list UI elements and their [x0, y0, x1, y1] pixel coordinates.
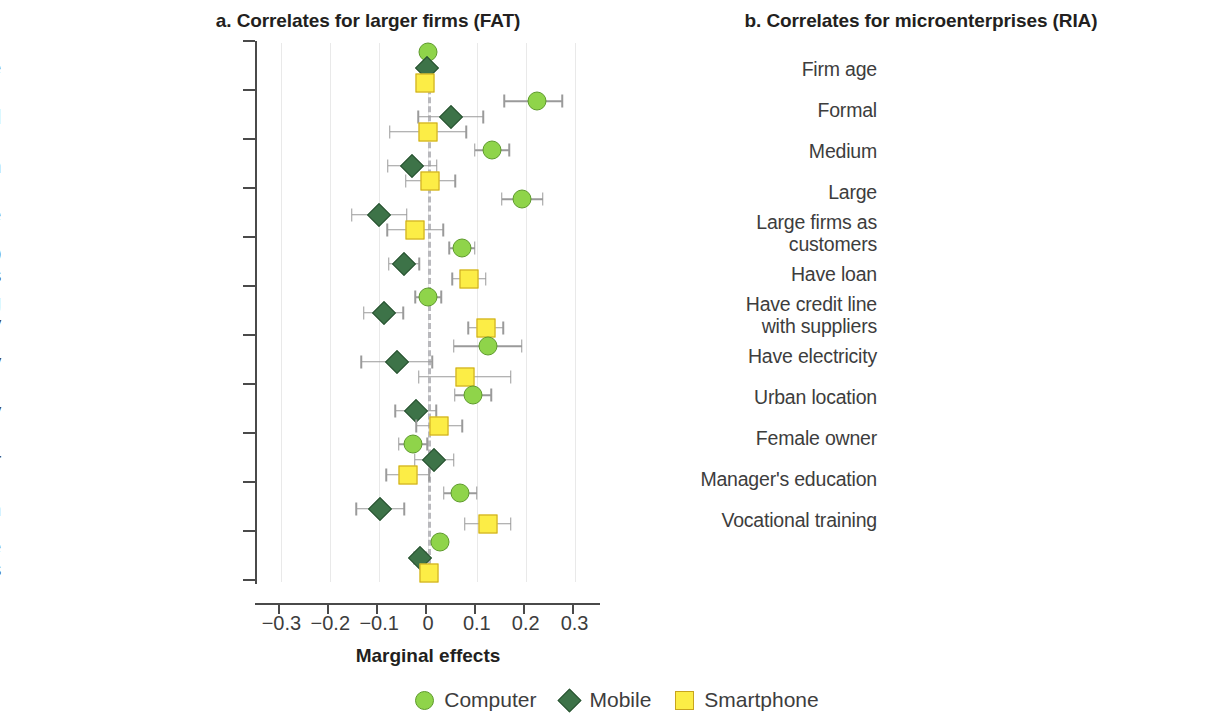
error-bar-cap-high-9 — [476, 487, 478, 500]
data-point-mobile-4[interactable] — [392, 251, 416, 275]
error-bar-cap-low-4 — [449, 242, 451, 255]
error-bar-cap-low-9 — [464, 517, 466, 530]
error-bar-cap-low-5 — [415, 291, 417, 304]
data-point-smartphone-0[interactable] — [416, 73, 435, 92]
data-point-computer-9[interactable] — [451, 484, 470, 503]
y-axis-label-b-3: Large — [637, 181, 877, 203]
x-tick-label-3: 0 — [422, 612, 433, 635]
error-bar-cap-high-6 — [432, 355, 434, 368]
y-tick-11 — [243, 579, 255, 581]
x-tick-label-2: −0.1 — [359, 612, 398, 635]
y-tick-6 — [243, 334, 255, 336]
square-glyph — [675, 691, 694, 710]
data-point-smartphone-5[interactable] — [476, 318, 495, 337]
error-bar-cap-low-7 — [416, 419, 418, 432]
error-bar-cap-low-3 — [387, 223, 389, 236]
y-axis-label-a-7: Located in capital city — [0, 400, 1, 422]
x-tick-label-4: 0.1 — [463, 612, 491, 635]
data-point-computer-3[interactable] — [513, 190, 532, 209]
y-axis-label-b-7: Have electricity — [637, 345, 877, 367]
error-bar-cap-high-5 — [502, 321, 504, 334]
x-tick-label-6: 0.3 — [561, 612, 589, 635]
error-bar-cap-low-2 — [387, 159, 389, 172]
error-bar-cap-high-7 — [490, 389, 492, 402]
data-point-computer-1[interactable] — [527, 92, 546, 111]
error-bar-cap-high-6 — [510, 370, 512, 383]
error-bar-cap-high-2 — [508, 144, 510, 157]
y-tick-7 — [243, 383, 255, 385]
error-bar-cap-high-9 — [403, 502, 405, 515]
legend-item-mobile[interactable]: Mobile — [558, 688, 651, 712]
data-point-smartphone-1[interactable] — [419, 122, 438, 141]
legend-item-smartphone[interactable]: Smartphone — [673, 688, 818, 712]
x-tick-label-0: −0.3 — [262, 612, 301, 635]
data-point-smartphone-6[interactable] — [455, 367, 474, 386]
gridline-4 — [477, 43, 478, 582]
diamond-icon — [558, 689, 580, 711]
error-bar-cap-low-5 — [467, 321, 469, 334]
square-icon — [673, 689, 695, 711]
data-point-smartphone-7[interactable] — [430, 416, 449, 435]
forest-plot-figure: a. Correlates for larger firms (FAT) −0.… — [0, 0, 1232, 717]
error-bar-cap-high-3 — [542, 193, 544, 206]
data-point-computer-4[interactable] — [453, 239, 472, 258]
panel-a-y-axis — [255, 41, 257, 584]
error-bar-cap-low-6 — [453, 340, 455, 353]
data-point-computer-5[interactable] — [419, 288, 438, 307]
y-axis-label-a-9: Manager's education — [0, 498, 1, 520]
data-point-mobile-9[interactable] — [368, 496, 392, 520]
diamond-glyph — [557, 688, 581, 712]
error-bar-cap-low-3 — [501, 193, 503, 206]
data-point-mobile-1[interactable] — [439, 104, 463, 128]
error-bar-cap-high-1 — [465, 125, 467, 138]
data-point-mobile-5[interactable] — [372, 300, 396, 324]
data-point-computer-6[interactable] — [478, 337, 497, 356]
y-tick-9 — [243, 481, 255, 483]
error-bar-cap-low-1 — [389, 125, 391, 138]
y-axis-label-a-8: Female owner — [0, 449, 1, 471]
y-tick-8 — [243, 432, 255, 434]
data-point-smartphone-3[interactable] — [406, 220, 425, 239]
data-point-computer-10[interactable] — [431, 533, 450, 552]
data-point-computer-2[interactable] — [483, 141, 502, 160]
circle-glyph — [415, 691, 434, 710]
x-tick-label-5: 0.2 — [512, 612, 540, 635]
error-bar-cap-high-4 — [485, 272, 487, 285]
gridline-0 — [281, 43, 282, 582]
data-point-computer-8[interactable] — [403, 435, 422, 454]
legend-label: Smartphone — [704, 688, 818, 712]
error-bar-cap-low-1 — [503, 95, 505, 108]
data-point-smartphone-2[interactable] — [421, 171, 440, 190]
data-point-smartphone-9[interactable] — [478, 514, 497, 533]
error-bar-cap-high-7 — [461, 419, 463, 432]
gridline-5 — [526, 43, 527, 582]
error-bar-cap-low-4 — [452, 272, 454, 285]
y-axis-label-b-1: Formal — [637, 99, 877, 121]
data-point-mobile-6[interactable] — [385, 349, 409, 373]
y-tick-0 — [243, 40, 255, 42]
error-bar-cap-low-8 — [414, 453, 416, 466]
legend-item-computer[interactable]: Computer — [413, 688, 536, 712]
data-point-smartphone-4[interactable] — [460, 269, 479, 288]
panel-b-title: b. Correlates for microenterprises (RIA) — [616, 10, 1232, 32]
data-point-computer-7[interactable] — [463, 386, 482, 405]
panel-a-x-axis-title: Marginal effects — [257, 645, 599, 667]
y-axis-label-b-9: Female owner — [637, 427, 877, 449]
error-bar-cap-low-5 — [363, 306, 365, 319]
error-bar-cap-low-2 — [474, 144, 476, 157]
y-tick-10 — [243, 530, 255, 532]
y-tick-5 — [243, 285, 255, 287]
y-axis-label-b-2: Medium — [637, 140, 877, 162]
error-bar-cap-high-2 — [455, 174, 457, 187]
y-axis-label-b-6: Have credit line with suppliers — [637, 293, 877, 337]
error-bar-cap-low-1 — [417, 110, 419, 123]
panel-a: a. Correlates for larger firms (FAT) −0.… — [0, 0, 616, 660]
data-point-mobile-8[interactable] — [422, 447, 446, 471]
error-bar-cap-low-8 — [386, 468, 388, 481]
error-bar-cap-high-6 — [521, 340, 523, 353]
error-bar-cap-high-4 — [474, 242, 476, 255]
data-point-smartphone-8[interactable] — [398, 465, 417, 484]
error-bar-cap-low-4 — [388, 257, 390, 270]
y-axis-label-a-10: Manager's experience in MNCs — [0, 536, 1, 580]
data-point-smartphone-10[interactable] — [420, 563, 439, 582]
